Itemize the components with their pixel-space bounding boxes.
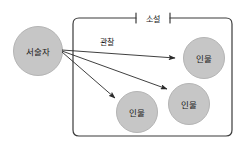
diagram-graphics <box>0 0 247 149</box>
node-narrator <box>14 27 63 76</box>
node-character-3 <box>117 92 158 133</box>
diagram-canvas: 소설 관찰 서술자 인물 인물 인물 <box>0 0 247 149</box>
node-character-2 <box>169 84 210 125</box>
node-character-1 <box>184 38 225 79</box>
